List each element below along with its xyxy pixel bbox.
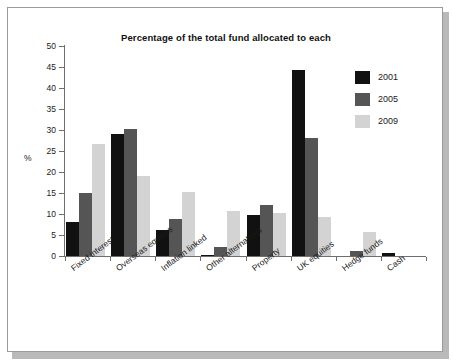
legend-item: 2005 [355, 88, 437, 110]
bar-group [247, 46, 286, 256]
bar-2001 [111, 134, 124, 256]
chart-title: Percentage of the total fund allocated t… [8, 32, 444, 43]
bar-2001 [66, 222, 79, 256]
chart-legend: 200120052009 [355, 66, 437, 132]
y-axis-tick-label: 10 [26, 209, 56, 219]
bar-group [201, 46, 240, 256]
legend-swatch [355, 93, 370, 106]
legend-swatch [355, 115, 370, 128]
y-axis-tick-label: 20 [26, 167, 56, 177]
legend-label: 2005 [378, 94, 398, 104]
y-axis-tick-label: 50 [26, 41, 56, 51]
y-axis-tick-label: 35 [26, 104, 56, 114]
bar-group [111, 46, 150, 256]
legend-swatch [355, 71, 370, 84]
x-axis-tick-mark [426, 257, 427, 261]
bar-group [156, 46, 195, 256]
screenshot-root: Percentage of the total fund allocated t… [0, 0, 453, 362]
bar-2005 [79, 193, 92, 256]
x-axis-tick-mark [155, 257, 156, 261]
bar-2001 [382, 253, 395, 256]
legend-item: 2001 [355, 66, 437, 88]
legend-label: 2001 [378, 72, 398, 82]
x-axis-tick-mark [246, 257, 247, 261]
bar-2001 [201, 255, 214, 256]
x-axis-tick-mark [291, 257, 292, 261]
legend-label: 2009 [378, 116, 398, 126]
y-axis-tick-label: 5 [26, 230, 56, 240]
bar-2001 [292, 70, 305, 256]
bar-2005 [305, 138, 318, 256]
y-axis-tick-label: 45 [26, 62, 56, 72]
x-axis-tick-mark [200, 257, 201, 261]
y-axis-tick-label: 40 [26, 83, 56, 93]
y-axis-tick-label: 0 [26, 251, 56, 261]
bar-2005 [124, 129, 137, 256]
x-axis-tick-mark [65, 257, 66, 261]
x-axis-tick-mark [110, 257, 111, 261]
y-axis-tick-label: 30 [26, 125, 56, 135]
x-axis-tick-mark [381, 257, 382, 261]
legend-item: 2009 [355, 110, 437, 132]
y-axis-tick-label: 25 [26, 146, 56, 156]
x-axis-tick-mark [336, 257, 337, 261]
bar-group [66, 46, 105, 256]
bar-group [292, 46, 331, 256]
y-axis-tick-label: 15 [26, 188, 56, 198]
chart-frame: Percentage of the total fund allocated t… [7, 7, 443, 352]
